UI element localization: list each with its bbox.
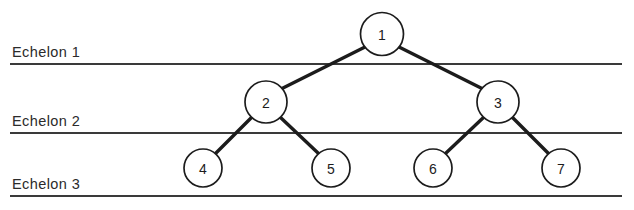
node-label-6: 6 bbox=[429, 161, 437, 177]
tree-node-7[interactable]: 7 bbox=[542, 149, 580, 187]
tree-edge-2-4 bbox=[216, 117, 252, 153]
node-label-1: 1 bbox=[378, 27, 386, 43]
node-label-4: 4 bbox=[199, 161, 207, 177]
node-label-7: 7 bbox=[557, 161, 565, 177]
tree-edge-3-7 bbox=[512, 117, 548, 153]
tree-node-2[interactable]: 2 bbox=[245, 81, 287, 123]
tree-edge-3-6 bbox=[446, 117, 484, 153]
tree-node-6[interactable]: 6 bbox=[414, 149, 452, 187]
tree-node-4[interactable]: 4 bbox=[184, 149, 222, 187]
tree-node-1[interactable]: 1 bbox=[361, 13, 404, 56]
tree-edge-2-5 bbox=[280, 117, 318, 153]
echelon-tree-figure: 1234567 Echelon 1Echelon 2Echelon 3 bbox=[0, 0, 634, 210]
node-label-5: 5 bbox=[327, 161, 335, 177]
echelon-label-2: Echelon 2 bbox=[12, 113, 80, 129]
tree-edge-1-2 bbox=[281, 47, 365, 89]
node-label-3: 3 bbox=[494, 95, 502, 111]
echelon-labels-group: Echelon 1Echelon 2Echelon 3 bbox=[12, 44, 80, 192]
tree-node-5[interactable]: 5 bbox=[312, 149, 350, 187]
tree-node-3[interactable]: 3 bbox=[477, 81, 519, 123]
node-label-2: 2 bbox=[262, 95, 270, 111]
echelon-label-3: Echelon 3 bbox=[12, 176, 80, 192]
tree-edge-1-3 bbox=[399, 47, 483, 89]
tree-nodes-group: 1234567 bbox=[184, 13, 580, 188]
echelon-label-1: Echelon 1 bbox=[12, 44, 80, 60]
tree-diagram-svg: 1234567 Echelon 1Echelon 2Echelon 3 bbox=[0, 0, 634, 210]
